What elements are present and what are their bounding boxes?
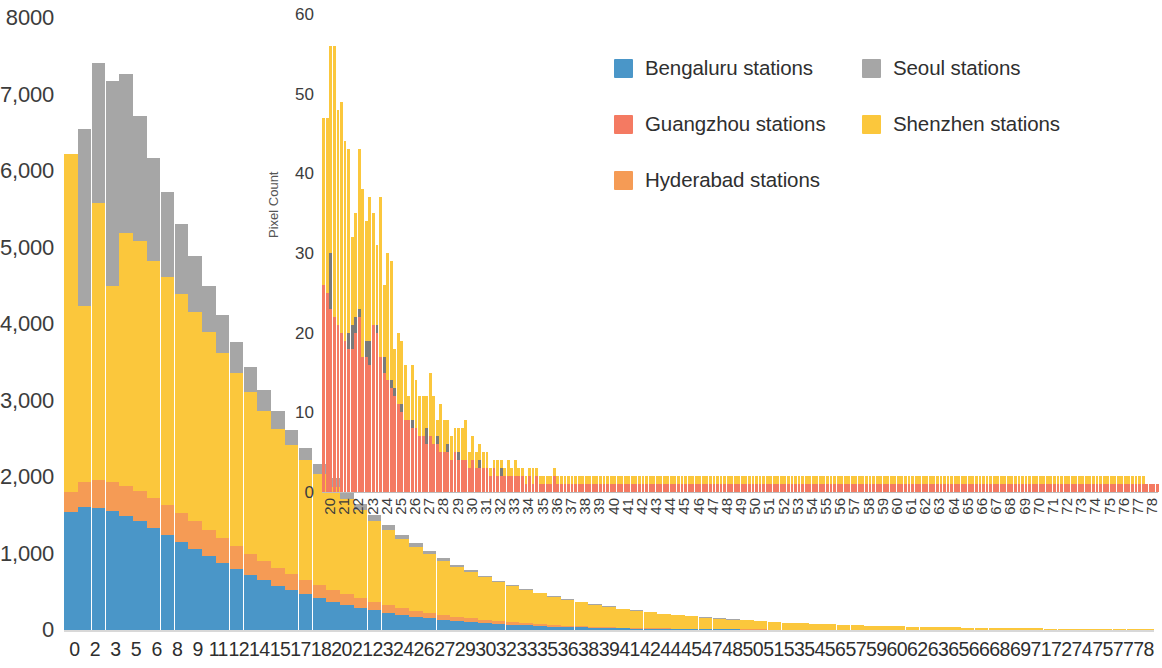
main-bar-segment [575, 602, 588, 626]
main-bar-segment [685, 616, 698, 628]
main-bar-segment [630, 611, 643, 628]
main-bar-segment [188, 312, 201, 521]
main-chart-x-tick: 54 [804, 633, 825, 665]
main-bar-segment [64, 512, 77, 630]
main-chart-x-tick: 12 [229, 633, 250, 665]
main-chart-y-tick: 3,000 [0, 390, 54, 412]
main-bar-segment [713, 619, 726, 630]
main-bar-segment [92, 63, 105, 203]
inset-chart-x-tick-slot: 45 [676, 494, 690, 552]
main-chart-bar [78, 18, 92, 630]
main-bar-segment [133, 491, 146, 522]
main-bar-segment [257, 580, 270, 630]
main-chart-x-tick: 62 [907, 633, 928, 665]
main-bar-segment [326, 602, 339, 630]
inset-chart-x-tick-slot: 69 [1016, 494, 1030, 552]
main-chart-x-tick: 3 [105, 633, 126, 665]
main-bar-segment [409, 617, 422, 630]
inset-chart-y-tick: 40 [295, 165, 314, 182]
main-chart-x-tick: 17 [290, 633, 311, 665]
legend-swatch-guangzhou-icon [614, 115, 633, 134]
main-bar-segment [216, 315, 229, 352]
main-chart-bar [133, 18, 147, 630]
main-chart-x-tick: 78 [1133, 633, 1154, 665]
legend-item-shenzhen[interactable]: Shenzhen stations [862, 112, 1094, 136]
main-bar-segment [382, 605, 395, 613]
main-bar-segment [147, 528, 160, 630]
main-bar-segment [616, 609, 629, 628]
main-chart-x-tick: 53 [784, 633, 805, 665]
main-bar-segment [382, 613, 395, 630]
main-bar-segment [478, 577, 491, 620]
main-chart-x-tick: 2 [85, 633, 106, 665]
main-chart-x-tick: 32 [496, 633, 517, 665]
main-bar-segment [216, 353, 229, 538]
main-bar-segment [285, 590, 298, 630]
main-chart-x-tick: 23 [372, 633, 393, 665]
legend-item-seoul[interactable]: Seoul stations [862, 56, 1094, 80]
inset-bar-segment [1156, 484, 1159, 492]
legend-swatch-shenzhen-icon [862, 115, 881, 134]
main-bar-segment [644, 612, 657, 628]
inset-chart-x-tick-slot: 22 [350, 494, 364, 552]
legend-item-guangzhou[interactable]: Guangzhou stations [614, 112, 862, 136]
main-chart-baseline [64, 630, 1154, 632]
main-bar-segment [119, 516, 132, 630]
main-chart-y-tick: 1,000 [0, 543, 54, 565]
main-bar-segment [478, 623, 491, 630]
main-bar-segment [768, 622, 781, 630]
main-bar-segment [506, 586, 519, 622]
main-bar-segment [244, 575, 257, 630]
main-chart-x-tick: 41 [619, 633, 640, 665]
inset-chart-y-tick: 20 [295, 324, 314, 341]
main-chart-bar [105, 18, 119, 630]
main-chart-x-tick: 29 [455, 633, 476, 665]
inset-chart-y-tick: 50 [295, 85, 314, 102]
main-chart-x-tick: 6 [146, 633, 167, 665]
main-chart-x-tick: 72 [1051, 633, 1072, 665]
main-bar-segment [133, 521, 146, 630]
main-bar-segment [437, 620, 450, 630]
legend-item-hyderabad[interactable]: Hyderabad stations [614, 168, 862, 192]
main-chart-x-tick: 47 [701, 633, 722, 665]
main-bar-segment [202, 556, 215, 630]
main-chart-y-tick: 0 [42, 619, 54, 641]
main-bar-segment [106, 286, 119, 482]
main-chart-y-axis: 01,0002,0003,0004,0005,0006,0007,0008000 [0, 0, 62, 640]
inset-chart-x-tick-slot: 75 [1101, 494, 1115, 552]
main-chart-x-tick: 9 [187, 633, 208, 665]
main-bar-segment [161, 277, 174, 506]
main-chart-x-tick: 38 [578, 633, 599, 665]
main-bar-segment [92, 480, 105, 507]
main-chart-x-tick: 27 [434, 633, 455, 665]
main-chart-x-tick: 20 [331, 633, 352, 665]
main-chart-x-tick: 57 [845, 633, 866, 665]
main-bar-segment [354, 608, 367, 630]
main-chart-x-tick: 21 [352, 633, 373, 665]
legend-swatch-hyderabad-icon [614, 171, 633, 190]
main-bar-segment [602, 607, 615, 627]
legend-label-guangzhou: Guangzhou stations [645, 112, 826, 136]
main-bar-segment [657, 614, 670, 629]
main-bar-segment [147, 261, 160, 497]
main-bar-segment [782, 623, 795, 630]
main-bar-segment [726, 620, 739, 630]
main-chart-x-tick: 66 [969, 633, 990, 665]
main-bar-segment [395, 608, 408, 615]
main-bar-segment [175, 542, 188, 630]
legend-label-bengaluru: Bengaluru stations [645, 56, 813, 80]
main-chart-y-tick: 6,000 [0, 160, 54, 182]
main-chart-x-tick: 77 [1113, 633, 1134, 665]
legend-item-bengaluru[interactable]: Bengaluru stations [614, 56, 862, 80]
main-chart-x-tick: 39 [599, 633, 620, 665]
main-bar-segment [161, 505, 174, 535]
legend-swatch-bengaluru-icon [614, 59, 633, 78]
inset-chart-x-tick-slot: 46 [690, 494, 704, 552]
legend-label-shenzhen: Shenzhen stations [893, 112, 1060, 136]
main-chart-x-tick: 42 [640, 633, 661, 665]
main-chart-x-tick: 44 [660, 633, 681, 665]
main-bar-segment [423, 618, 436, 630]
main-chart-x-tick: 65 [948, 633, 969, 665]
main-bar-segment [78, 507, 91, 630]
main-bar-segment [188, 256, 201, 312]
